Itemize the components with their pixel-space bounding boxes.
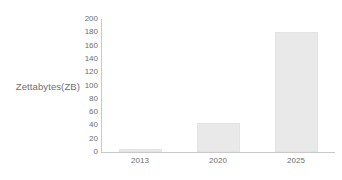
y-axis-tick-label: 180 xyxy=(72,28,98,36)
y-axis-tick-label: 20 xyxy=(72,135,98,143)
y-axis-tick-label: 200 xyxy=(72,15,98,23)
y-axis-tick-label: 60 xyxy=(72,108,98,116)
y-axis-tick-label: 120 xyxy=(72,68,98,76)
plot-area xyxy=(101,19,335,153)
y-axis-tick-label: 0 xyxy=(72,148,98,156)
y-axis-tick-label: 100 xyxy=(72,82,98,90)
x-axis-line xyxy=(101,152,335,153)
y-axis-tick-label: 140 xyxy=(72,55,98,63)
bar-2020 xyxy=(197,123,240,152)
y-axis-tick-label: 80 xyxy=(72,95,98,103)
y-axis-title: Zettabytes(ZB) xyxy=(8,81,80,92)
bar-chart: Zettabytes(ZB) 200 180 160 140 120 100 8… xyxy=(0,0,342,180)
x-axis-tick-label: 2020 xyxy=(179,156,257,165)
bar-2025 xyxy=(275,32,318,152)
y-axis-tick-label: 40 xyxy=(72,121,98,129)
y-axis-line xyxy=(101,19,102,153)
x-axis-tick-labels: 2013 2020 2025 xyxy=(101,156,335,170)
bar-2013 xyxy=(119,149,162,152)
y-axis-tick-label: 160 xyxy=(72,42,98,50)
y-axis-tick-labels: 200 180 160 140 120 100 80 60 40 20 0 xyxy=(72,14,98,160)
x-axis-tick-label: 2013 xyxy=(101,156,179,165)
x-axis-tick-label: 2025 xyxy=(257,156,335,165)
